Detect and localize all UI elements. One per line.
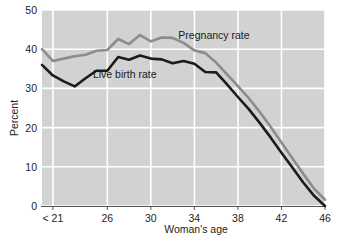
x-tick-label: 42 [276, 212, 288, 224]
y-tick-label: 30 [25, 82, 37, 94]
y-tick-label: 20 [25, 122, 37, 134]
y-axis-tick-labels: 01020304050 [25, 4, 37, 212]
y-tick-label: 50 [25, 4, 37, 16]
x-tick-label: 46 [319, 212, 331, 224]
y-axis-title: Percent [8, 100, 20, 136]
series-label-pregnancy-rate: Pregnancy rate [178, 29, 249, 41]
x-tick-label: 26 [101, 212, 113, 224]
axis-lines [41, 206, 326, 210]
x-tick-label: 38 [232, 212, 244, 224]
x-axis-title: Woman's age [164, 223, 228, 235]
series-label-live-birth-rate: Live birth rate [93, 68, 157, 80]
y-tick-label: 40 [25, 43, 37, 55]
x-tick-label: < 21 [43, 212, 64, 224]
y-tick-label: 0 [31, 200, 37, 212]
y-tick-label: 10 [25, 161, 37, 173]
chart-container: 01020304050 < 21263034384246 Pregnancy r… [0, 0, 343, 242]
x-tick-label: 30 [145, 212, 157, 224]
line-chart: 01020304050 < 21263034384246 Pregnancy r… [0, 0, 343, 242]
